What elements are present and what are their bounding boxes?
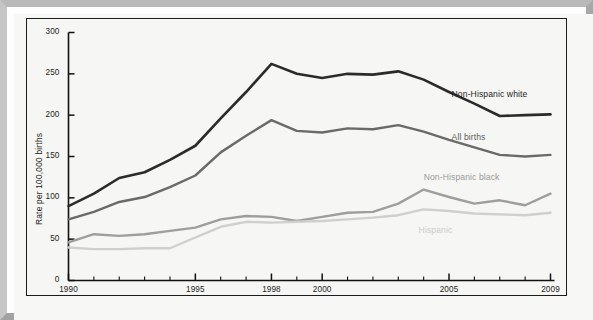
- y-axis-tick-label: 250: [0, 68, 60, 77]
- y-axis-tick-label: 200: [0, 110, 60, 119]
- series-label-non-hispanic-white: Non-Hispanic white: [452, 89, 528, 99]
- series-label-non-hispanic-black: Non-Hispanic black: [424, 172, 500, 182]
- x-axis-tick-label: 1995: [175, 285, 215, 294]
- x-axis-tick-label: 1990: [49, 285, 89, 294]
- x-axis-tick-label: 2000: [302, 285, 342, 294]
- series-label-all-births: All births: [452, 132, 486, 142]
- chart-figure: [26, 18, 567, 296]
- y-axis-tick-label: 150: [0, 151, 60, 160]
- y-axis-title: Rate per 100,000 births: [34, 133, 44, 225]
- y-axis-tick-label: 300: [0, 27, 60, 36]
- y-axis-tick-label: 0: [0, 275, 60, 284]
- x-axis-tick-label: 2005: [429, 285, 469, 294]
- x-axis-tick-label: 2009: [531, 285, 571, 294]
- y-axis-tick-label: 100: [0, 192, 60, 201]
- series-label-hispanic: Hispanic: [419, 225, 453, 235]
- x-axis-tick-label: 1998: [251, 285, 291, 294]
- y-axis-tick-label: 50: [0, 234, 60, 243]
